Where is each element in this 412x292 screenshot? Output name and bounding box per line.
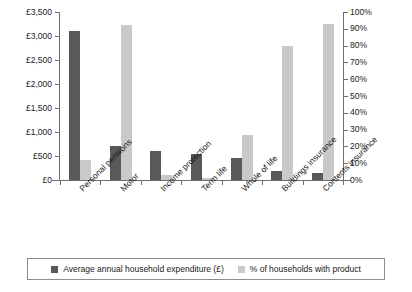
right-axis-tick [344,12,348,13]
chart-legend: Average annual household expenditure (£)… [27,258,385,280]
category-axis-tick [303,181,304,185]
left-axis-tick [55,60,59,61]
legend-swatch-icon [238,266,245,273]
right-axis-tick [344,113,348,114]
left-axis-tick-label: £3,500 [0,8,52,17]
left-axis-tick [55,156,59,157]
left-axis-tick-label: £3,000 [0,32,52,41]
bar-chart: £0£500£1,000£1,500£2,000£2,500£3,000£3,5… [0,0,412,292]
bar-expenditure [271,171,282,180]
category-axis-tick [262,181,263,185]
left-axis-tick-label: £2,500 [0,56,52,65]
left-axis-tick [55,108,59,109]
right-axis-tick-label: 80% [350,41,390,50]
left-axis-tick [55,180,59,181]
bar-expenditure [231,158,242,180]
legend-item[interactable]: % of households with product [238,264,361,274]
right-axis-tick [344,180,348,181]
bar-expenditure [312,173,323,180]
bar-expenditure [69,31,80,180]
legend-swatch-icon [51,266,58,273]
bar-percentage [121,25,132,180]
right-axis-tick-label: 100% [350,8,390,17]
category-axis-tick [60,181,61,185]
right-axis-tick [344,79,348,80]
legend-label: % of households with product [250,264,361,274]
left-axis-tick-label: £1,000 [0,128,52,137]
category-axis-tick [141,181,142,185]
right-axis-tick [344,62,348,63]
right-axis-tick-label: 50% [350,92,390,101]
right-axis-tick [344,96,348,97]
bar-percentage [323,24,334,180]
left-axis-tick [55,132,59,133]
category-axis-tick [100,181,101,185]
left-axis-tick [55,36,59,37]
left-axis-tick-label: £2,000 [0,80,52,89]
bar-expenditure [150,151,161,180]
left-axis-tick-label: £500 [0,152,52,161]
right-axis-tick [344,46,348,47]
left-axis-tick-label: £0 [0,176,52,185]
bar-percentage [282,46,293,180]
right-axis-tick [344,146,348,147]
category-axis-tick [181,181,182,185]
left-axis-tick-label: £1,500 [0,104,52,113]
right-axis-tick-label: 30% [350,125,390,134]
right-axis-tick-label: 0% [350,176,390,185]
legend-item[interactable]: Average annual household expenditure (£) [51,264,224,274]
legend-label: Average annual household expenditure (£) [63,264,224,274]
right-axis-tick-label: 70% [350,58,390,67]
right-axis-tick-label: 60% [350,75,390,84]
right-axis-tick [344,29,348,30]
right-axis-tick-label: 90% [350,24,390,33]
left-axis-tick [55,12,59,13]
right-axis-tick-label: 40% [350,108,390,117]
category-axis-tick [343,181,344,185]
category-axis-tick [222,181,223,185]
left-axis-tick [55,84,59,85]
right-axis-tick [344,130,348,131]
